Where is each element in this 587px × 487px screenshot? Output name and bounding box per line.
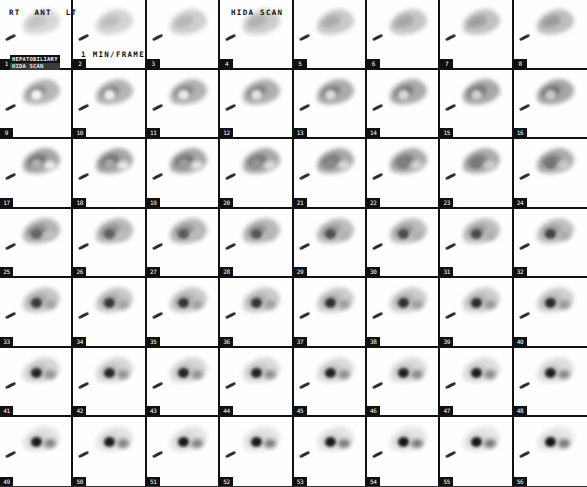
fiducial-marker [372,381,383,388]
scan-frame[interactable]: 26 [73,209,146,279]
fiducial-marker [299,34,310,41]
fiducial-marker [78,173,89,180]
scan-frame[interactable]: 29 [294,209,367,279]
scan-frame[interactable]: 19 [147,139,220,209]
scan-frame[interactable]: 11 [147,70,220,140]
frame-number-badge: 17 [0,198,13,207]
fiducial-marker [519,103,530,110]
scan-frame[interactable]: 38 [367,278,440,348]
scintigraphy-image [294,0,365,68]
scan-frame[interactable]: 42 [73,348,146,418]
scan-frame[interactable]: 34 [73,278,146,348]
scan-frame[interactable]: 56 [514,417,587,487]
scan-frame[interactable]: 32 [514,209,587,279]
fiducial-marker [152,312,163,319]
scan-frame[interactable]: 13 [294,70,367,140]
scan-frame[interactable]: 45 [294,348,367,418]
scintigraphy-image [220,348,291,416]
scan-frame[interactable]: 20 [220,139,293,209]
scintigraphy-image [367,0,438,68]
scintigraphy-image [220,209,291,277]
frame-number-badge: 19 [147,198,160,207]
scan-frame[interactable]: 7 [440,0,513,70]
scan-frame[interactable]: 48 [514,348,587,418]
scan-frame[interactable]: 23 [440,139,513,209]
scan-frame[interactable]: 27 [147,209,220,279]
scan-frame[interactable]: 43 [147,348,220,418]
fiducial-marker [152,381,163,388]
scan-frame[interactable]: 36 [220,278,293,348]
bowel-uptake-region [191,370,203,379]
scan-frame[interactable]: 3 [147,0,220,70]
bowel-uptake-region [558,231,570,240]
bowel-uptake-region [264,370,276,379]
scan-frame[interactable]: 15 [440,70,513,140]
scan-frame[interactable]: 22 [367,139,440,209]
frame-rate-label: 1 MIN/FRAME [81,50,145,59]
frame-number-badge: 22 [367,198,380,207]
scan-frame[interactable]: 16 [514,70,587,140]
fiducial-marker [152,242,163,249]
fiducial-marker [299,451,310,458]
scintigraphy-image [367,417,438,486]
scan-frame[interactable]: 18 [73,139,146,209]
scan-frame[interactable]: 30 [367,209,440,279]
orientation-label-rt: RT [9,8,21,17]
scan-frame[interactable]: 2 [73,0,146,70]
scan-frame[interactable]: 25 [0,209,73,279]
scan-frame[interactable]: 8 [514,0,587,70]
scan-frame[interactable]: 21 [294,139,367,209]
fiducial-marker [225,34,236,41]
frame-number-badge: 29 [294,267,307,276]
scan-frame[interactable]: 41 [0,348,73,418]
scan-frame[interactable]: 40 [514,278,587,348]
fiducial-marker [372,242,383,249]
scan-frame[interactable]: 6 [367,0,440,70]
scan-frame[interactable]: 53 [294,417,367,487]
scan-frame[interactable]: 37 [294,278,367,348]
fiducial-marker [78,451,89,458]
scan-frame[interactable]: 55 [440,417,513,487]
scan-frame[interactable]: 52 [220,417,293,487]
frame-number-badge: 42 [73,406,86,415]
scintigraphy-image [440,278,511,346]
scan-frame[interactable]: 9 [0,70,73,140]
scan-frame[interactable]: 35 [147,278,220,348]
scan-frame[interactable]: 44 [220,348,293,418]
orientation-labels: RT ANT LT [9,8,77,17]
frame-number-badge: 26 [73,267,86,276]
frame-number-badge: 32 [514,267,527,276]
scan-frame[interactable]: 14 [367,70,440,140]
scan-frame[interactable]: 28 [220,209,293,279]
fiducial-marker [152,451,163,458]
scan-frame[interactable]: 47 [440,348,513,418]
frame-number-badge: 36 [220,337,233,346]
scan-frame[interactable]: 17 [0,139,73,209]
frame-number-badge: 8 [514,59,527,68]
scintigraphy-image [0,348,71,416]
scan-frame[interactable]: 31 [440,209,513,279]
frame-number-badge: 44 [220,406,233,415]
scan-frame[interactable]: 49 [0,417,73,487]
bowel-uptake-region [411,161,423,170]
hida-scan-sheet: 1234567891011121314151617181920212223242… [0,0,587,487]
scan-frame[interactable]: 46 [367,348,440,418]
fiducial-marker [225,451,236,458]
bowel-uptake-region [117,161,129,170]
scan-frame[interactable]: 12 [220,70,293,140]
scan-frame[interactable]: 39 [440,278,513,348]
scan-frame[interactable]: 33 [0,278,73,348]
bowel-uptake-region [44,439,56,448]
bowel-uptake-region [338,370,350,379]
scan-frame[interactable]: 10 [73,70,146,140]
frame-number-badge: 7 [440,59,453,68]
fiducial-marker [225,173,236,180]
scan-frame[interactable]: 51 [147,417,220,487]
scan-frame[interactable]: 24 [514,139,587,209]
frame-number-badge: 54 [367,477,380,486]
scan-frame[interactable]: 50 [73,417,146,487]
scan-frame[interactable]: 54 [367,417,440,487]
scan-frame[interactable]: 5 [294,0,367,70]
scintigraphy-image [514,278,587,346]
bowel-uptake-region [338,231,350,240]
